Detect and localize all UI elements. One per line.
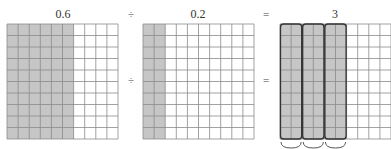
equals-symbol-middle: = <box>263 74 269 86</box>
divide-symbol-middle: ÷ <box>128 74 134 86</box>
quotient-grid <box>280 24 391 148</box>
dividend-grid <box>7 24 118 139</box>
divide-symbol-top: ÷ <box>128 8 134 20</box>
divisor-label: 0.2 <box>191 7 206 21</box>
division-model-diagram: 0.6 ÷ 0.2 = 3 ÷ = <box>0 0 391 149</box>
equals-symbol-top: = <box>263 8 269 20</box>
group-brace <box>303 142 323 148</box>
group-brace <box>325 142 345 148</box>
divisor-grid <box>143 24 254 139</box>
group-brace <box>281 142 301 148</box>
dividend-label: 0.6 <box>56 7 71 21</box>
quotient-label: 3 <box>332 7 338 21</box>
